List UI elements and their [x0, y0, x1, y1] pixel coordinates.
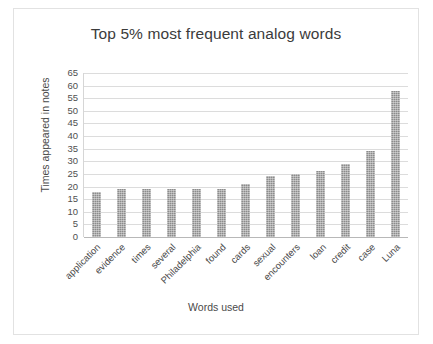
bar-slot: [84, 73, 109, 237]
x-label-slot: encounters: [283, 239, 308, 309]
y-axis-ticks: 65605550454035302520151050: [58, 73, 78, 237]
bar[interactable]: [142, 189, 151, 237]
x-label-slot: found: [208, 239, 233, 309]
plot-area: [83, 73, 408, 237]
bar[interactable]: [217, 189, 226, 237]
y-axis-tick-label: 5: [58, 220, 78, 230]
bar-slot: [234, 73, 259, 237]
bar-slot: [159, 73, 184, 237]
bar-slot: [209, 73, 234, 237]
x-label-slot: Philadelphia: [183, 239, 208, 309]
y-axis-tick-label: 55: [58, 93, 78, 103]
bar[interactable]: [117, 189, 126, 237]
x-label-slot: application: [83, 239, 108, 309]
x-axis-tick-label: application: [63, 242, 102, 281]
bar-slot: [383, 73, 408, 237]
y-axis-tick-label: 10: [58, 207, 78, 217]
bar[interactable]: [92, 192, 101, 237]
y-axis-tick-label: 60: [58, 81, 78, 91]
y-axis-tick-label: 30: [58, 157, 78, 167]
x-label-slot: times: [133, 239, 158, 309]
y-axis-tick-label: 35: [58, 144, 78, 154]
bar[interactable]: [266, 176, 275, 237]
x-axis-tick-label: cards: [229, 242, 252, 265]
chart-container: Top 5% most frequent analog words Times …: [13, 8, 419, 335]
bar[interactable]: [366, 151, 375, 237]
y-axis-tick-label: 15: [58, 194, 78, 204]
x-axis-tick-label: Luna: [381, 242, 403, 264]
y-axis-title: Times appeared in notes: [39, 55, 51, 215]
bar-slot: [134, 73, 159, 237]
y-axis-tick-label: 25: [58, 169, 78, 179]
x-label-slot: case: [358, 239, 383, 309]
gridline: [84, 237, 408, 238]
bar-slot: [308, 73, 333, 237]
bar[interactable]: [192, 189, 201, 237]
bar-slot: [258, 73, 283, 237]
bar[interactable]: [341, 164, 350, 237]
bar[interactable]: [291, 174, 300, 237]
x-label-slot: loan: [308, 239, 333, 309]
x-label-slot: credit: [333, 239, 358, 309]
bar[interactable]: [316, 171, 325, 237]
y-axis-tick-label: 65: [58, 68, 78, 78]
bar[interactable]: [241, 184, 250, 237]
y-axis-tick-label: 45: [58, 119, 78, 129]
x-label-slot: evidence: [108, 239, 133, 309]
x-label-slot: cards: [233, 239, 258, 309]
bar-slot: [283, 73, 308, 237]
bar-slot: [184, 73, 209, 237]
bar-slot: [358, 73, 383, 237]
x-axis-tick-label: found: [204, 242, 228, 266]
x-axis-title: Words used: [14, 301, 418, 313]
x-axis-tick-label: case: [356, 242, 377, 263]
y-axis-tick-label: 20: [58, 182, 78, 192]
chart-title: Top 5% most frequent analog words: [14, 25, 418, 43]
y-axis-tick-label: 0: [58, 232, 78, 242]
bar-series: [84, 73, 408, 237]
bar-slot: [109, 73, 134, 237]
bar[interactable]: [167, 189, 176, 237]
bar[interactable]: [391, 91, 400, 237]
x-axis-tick-label: credit: [329, 242, 352, 265]
x-axis-ticks: applicationevidencetimesseveralPhiladelp…: [83, 239, 408, 309]
y-axis-tick-label: 50: [58, 106, 78, 116]
x-axis-tick-label: loan: [308, 242, 327, 261]
y-axis-tick-label: 40: [58, 131, 78, 141]
plot-wrapper: 65605550454035302520151050 applicationev…: [58, 73, 408, 245]
bar-slot: [333, 73, 358, 237]
x-label-slot: Luna: [383, 239, 408, 309]
